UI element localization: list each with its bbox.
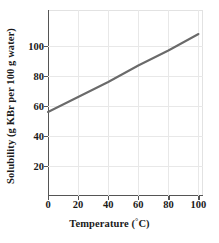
y-tick-label: 40 [18, 131, 44, 142]
x-axis-title-base: Temperature ( [69, 218, 135, 229]
x-tick-label: 60 [133, 199, 144, 211]
x-axis-title: Temperature (°C) [0, 217, 219, 229]
y-tick-label: 100 [18, 41, 44, 52]
x-tick-label: 80 [163, 199, 174, 211]
x-tick-label: 0 [45, 199, 50, 211]
x-axis-title-tail: C) [138, 218, 149, 229]
y-tick-label: 20 [18, 161, 44, 172]
x-tick-label: 100 [191, 199, 207, 211]
y-axis-title: Solubility (g KBr per 100 g water) [3, 3, 19, 209]
y-tick-label: 60 [18, 101, 44, 112]
plot-area [48, 10, 203, 196]
x-axis-tick-labels: 020406080100 [0, 199, 219, 213]
solubility-chart-figure: Solubility (g KBr per 100 g water) 20406… [0, 0, 219, 243]
y-tick-label: 80 [18, 71, 44, 82]
x-tick-label: 40 [103, 199, 114, 211]
solubility-line-series [48, 10, 203, 196]
x-tick-label: 20 [73, 199, 84, 211]
